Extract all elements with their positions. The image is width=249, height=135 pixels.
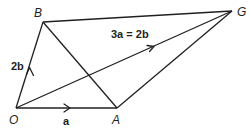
segment-OG xyxy=(16,11,232,108)
label-vector-OG: 3a = 2b xyxy=(111,28,149,40)
vector-diagram: B G O A 2b 3a = 2b a xyxy=(0,0,249,135)
segment-BG xyxy=(43,11,232,22)
arrow-icon-OB xyxy=(27,68,34,76)
label-point-B: B xyxy=(34,6,42,20)
label-point-A: A xyxy=(111,113,120,127)
segment-AG xyxy=(117,11,232,108)
label-vector-OA: a xyxy=(63,115,70,127)
segment-BA xyxy=(43,22,117,108)
label-point-O: O xyxy=(9,113,18,127)
label-vector-OB: 2b xyxy=(11,60,24,72)
label-point-G: G xyxy=(237,5,246,19)
